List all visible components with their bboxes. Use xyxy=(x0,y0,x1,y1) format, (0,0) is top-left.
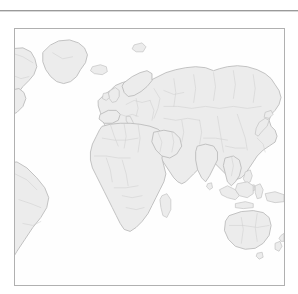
page-canvas xyxy=(0,0,298,294)
world-map-svg xyxy=(15,29,284,285)
figure-frame xyxy=(14,28,285,286)
world-map-viewport[interactable] xyxy=(15,29,284,285)
horizontal-rule-shadow xyxy=(0,11,298,12)
